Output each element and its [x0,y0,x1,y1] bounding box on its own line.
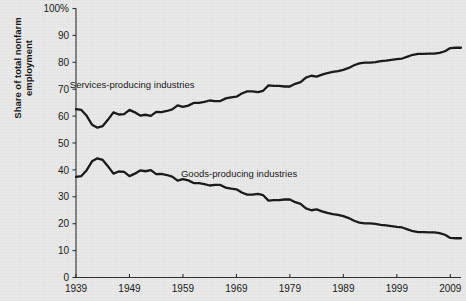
chart-figure: Share of total nonfarm employment 010203… [0,0,466,301]
y-tick-label: 30 [58,191,70,202]
y-tick-label: 10 [58,245,70,256]
line-chart-canvas: 0102030405060708090100%19391949195919691… [0,0,466,301]
data-series [76,48,461,238]
axes [76,9,461,278]
x-tick-label: 1999 [386,283,409,294]
x-tick-label: 1939 [65,283,88,294]
y-tick-label: 60 [58,111,70,122]
axis-tick-labels: 0102030405060708090100%19391949195919691… [43,3,461,293]
axis-ticks [73,9,451,278]
x-tick-label: 1969 [225,283,248,294]
y-tick-label: 70 [58,84,70,95]
series-annotations: Services-producing industriesGoods-produ… [70,79,298,179]
x-tick-label: 1949 [118,283,141,294]
y-tick-label: 90 [58,30,70,41]
y-tick-label: 40 [58,165,70,176]
y-tick-label: 80 [58,57,70,68]
x-tick-label: 1959 [172,283,195,294]
y-tick-label: 0 [63,272,69,283]
series-annotation: Goods-producing industries [181,168,297,179]
y-tick-label: 100% [43,3,69,14]
x-tick-label: 1989 [332,283,355,294]
series-annotation: Services-producing industries [70,79,195,90]
x-tick-label: 1979 [279,283,302,294]
y-tick-label: 50 [58,138,70,149]
x-tick-label: 2009 [439,283,462,294]
y-tick-label: 20 [58,218,70,229]
y-axis-title: Share of total nonfarm employment [12,0,34,138]
